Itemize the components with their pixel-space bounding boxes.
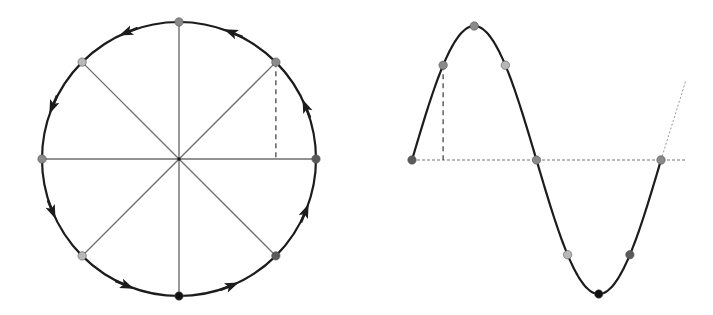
arrowhead-icon bbox=[119, 279, 136, 294]
circle-point-180 bbox=[38, 155, 46, 163]
sine-wave bbox=[408, 22, 686, 298]
arrow-shaft bbox=[54, 95, 57, 103]
continuation-dotted-line bbox=[661, 80, 686, 160]
wave-point-315 bbox=[626, 251, 634, 259]
rotation-arrow-icon bbox=[45, 94, 62, 116]
arrowhead-icon bbox=[222, 25, 239, 40]
arrow-shaft bbox=[220, 287, 228, 290]
wave-point-45 bbox=[439, 61, 447, 69]
arrow-shaft bbox=[129, 28, 137, 31]
rotation-arrow-icon bbox=[43, 198, 60, 220]
rotation-arrow-icon bbox=[114, 276, 136, 293]
unit-circle bbox=[38, 18, 320, 300]
arrowhead-icon bbox=[45, 99, 60, 116]
center-point bbox=[177, 157, 181, 161]
circle-point-0 bbox=[312, 155, 320, 163]
circle-point-45 bbox=[272, 58, 280, 66]
wave-point-90 bbox=[470, 22, 478, 30]
wave-point-360 bbox=[657, 156, 665, 164]
arrow-shaft bbox=[301, 214, 304, 222]
wave-point-0 bbox=[408, 156, 416, 164]
arrow-shaft bbox=[115, 281, 123, 284]
arrow-shaft bbox=[48, 200, 51, 208]
wave-point-270 bbox=[595, 290, 603, 298]
circle-point-135 bbox=[78, 58, 86, 66]
rotation-arrow-icon bbox=[296, 202, 313, 224]
circle-point-315 bbox=[272, 252, 280, 260]
wave-point-180 bbox=[532, 156, 540, 164]
rotation-arrow-icon bbox=[222, 25, 244, 42]
arrowhead-icon bbox=[298, 97, 313, 114]
wave-point-225 bbox=[563, 251, 571, 259]
rotation-arrow-icon bbox=[218, 278, 240, 295]
arrowhead-icon bbox=[46, 204, 61, 221]
arrowhead-icon bbox=[117, 26, 134, 41]
arrow-shaft bbox=[234, 34, 242, 37]
rotation-arrow-icon bbox=[298, 97, 315, 119]
arrow-shaft bbox=[307, 109, 310, 117]
circle-point-270 bbox=[175, 292, 183, 300]
circle-point-90 bbox=[175, 18, 183, 26]
diagram-canvas bbox=[0, 0, 713, 315]
circle-sine-diagram bbox=[0, 0, 713, 315]
rotation-arrow-icon bbox=[117, 23, 139, 40]
circle-point-225 bbox=[78, 252, 86, 260]
arrowhead-icon bbox=[224, 278, 241, 293]
arrowhead-icon bbox=[299, 202, 314, 219]
wave-point-135 bbox=[501, 61, 509, 69]
